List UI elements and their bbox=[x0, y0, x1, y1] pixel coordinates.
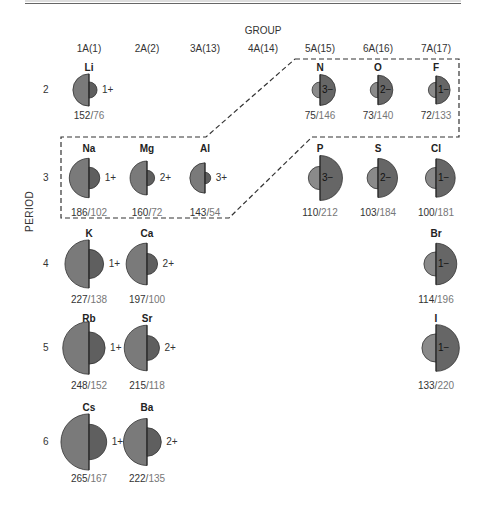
element-symbol: Cs bbox=[83, 402, 96, 413]
radius-values: 133/220 bbox=[418, 380, 454, 391]
atomic-radius: 215 bbox=[129, 380, 146, 391]
ionic-radius: 102 bbox=[90, 207, 107, 218]
atom-half-circle bbox=[73, 74, 89, 106]
atom-half-circle bbox=[124, 325, 147, 371]
radius-values: 160/72 bbox=[132, 207, 163, 218]
atom-half-circle bbox=[123, 418, 147, 465]
ion-charge: 1+ bbox=[102, 84, 113, 95]
atomic-radius: 114 bbox=[418, 294, 434, 305]
radius-values: 215/118 bbox=[129, 380, 164, 391]
atomic-radius: 73 bbox=[363, 110, 374, 121]
atom-half-circle bbox=[422, 334, 436, 362]
atom-half-circle bbox=[428, 82, 436, 97]
element-symbol: Al bbox=[200, 143, 210, 154]
atomic-radius: 222 bbox=[129, 473, 146, 484]
element-symbol: N bbox=[316, 62, 323, 73]
ion-charge: 3− bbox=[322, 172, 333, 183]
ion-half-circle bbox=[89, 332, 105, 364]
atomic-radius: 227 bbox=[71, 294, 88, 305]
element-symbol: Na bbox=[83, 143, 96, 154]
radius-values: 103/184 bbox=[360, 207, 396, 218]
ionic-radius: 76 bbox=[93, 110, 104, 121]
radius-diagram bbox=[0, 0, 480, 511]
ionic-radius: 140 bbox=[377, 110, 394, 121]
ion-charge: 1+ bbox=[109, 258, 120, 269]
ion-charge: 3+ bbox=[216, 172, 227, 183]
radius-values: 152/76 bbox=[74, 110, 105, 121]
radius-values: 73/140 bbox=[363, 110, 394, 121]
radius-values: 114/196 bbox=[418, 294, 453, 305]
ion-charge: 2− bbox=[380, 172, 391, 183]
ion-charge: 2+ bbox=[166, 436, 177, 447]
ionic-radius: 138 bbox=[90, 294, 107, 305]
element-symbol: I bbox=[435, 313, 438, 324]
atom-half-circle bbox=[312, 82, 320, 98]
ionic-radius: 181 bbox=[437, 207, 454, 218]
ion-half-circle bbox=[147, 428, 161, 457]
atom-half-circle bbox=[61, 414, 89, 470]
ionic-radius: 133 bbox=[435, 110, 452, 121]
atom-half-circle bbox=[308, 166, 320, 189]
ionic-radius: 184 bbox=[379, 207, 396, 218]
isoelectronic-dashed-outline bbox=[61, 59, 459, 218]
radius-values: 248/152 bbox=[71, 380, 107, 391]
radius-values: 110/212 bbox=[302, 207, 337, 218]
element-symbol: Ca bbox=[141, 228, 154, 239]
element-symbol: K bbox=[85, 228, 92, 239]
element-symbol: F bbox=[433, 62, 439, 73]
radius-values: 100/181 bbox=[418, 207, 454, 218]
atomic-radius: 72 bbox=[421, 110, 432, 121]
ionic-radius: 135 bbox=[148, 473, 165, 484]
ion-half-circle bbox=[147, 170, 155, 185]
ion-charge: 1− bbox=[438, 342, 449, 353]
ionic-radius: 212 bbox=[321, 207, 338, 218]
ion-charge: 1− bbox=[438, 172, 449, 183]
ion-charge: 1− bbox=[438, 258, 449, 269]
atomic-radius: 143 bbox=[190, 207, 207, 218]
atomic-radius: 110 bbox=[302, 207, 318, 218]
element-symbol: Br bbox=[430, 228, 441, 239]
element-symbol: Cl bbox=[431, 143, 441, 154]
atomic-radius: 160 bbox=[132, 207, 149, 218]
radius-values: 222/135 bbox=[129, 473, 165, 484]
atom-half-circle bbox=[190, 163, 205, 193]
ion-charge: 1− bbox=[438, 84, 449, 95]
ion-half-circle bbox=[89, 167, 100, 189]
atomic-radius: 103 bbox=[360, 207, 377, 218]
atomic-radius: 186 bbox=[71, 207, 88, 218]
radius-values: 197/100 bbox=[129, 294, 165, 305]
element-symbol: P bbox=[317, 143, 324, 154]
atomic-radius: 152 bbox=[74, 110, 91, 121]
element-symbol: O bbox=[374, 62, 382, 73]
ion-charge: 1+ bbox=[110, 342, 121, 353]
ion-charge: 2+ bbox=[160, 172, 171, 183]
atom-half-circle bbox=[63, 322, 89, 375]
atomic-radius: 197 bbox=[129, 294, 146, 305]
ion-half-circle bbox=[89, 82, 97, 98]
ion-charge: 3− bbox=[322, 84, 333, 95]
atom-half-circle bbox=[69, 158, 89, 197]
element-symbol: Ba bbox=[141, 402, 154, 413]
ionic-radius: 220 bbox=[437, 380, 454, 391]
element-symbol: Mg bbox=[140, 143, 154, 154]
radius-values: 143/54 bbox=[190, 207, 221, 218]
radius-values: 72/133 bbox=[421, 110, 452, 121]
element-symbol: Li bbox=[85, 62, 94, 73]
atom-half-circle bbox=[370, 82, 378, 97]
atom-half-circle bbox=[425, 167, 436, 188]
atom-half-circle bbox=[65, 240, 89, 288]
ionic-radius: 196 bbox=[437, 294, 454, 305]
atomic-radius: 100 bbox=[418, 207, 435, 218]
radius-values: 227/138 bbox=[71, 294, 107, 305]
ion-half-circle bbox=[147, 253, 158, 274]
ion-charge: 1+ bbox=[112, 436, 123, 447]
ion-half-circle bbox=[205, 172, 211, 183]
ion-charge: 1+ bbox=[105, 172, 116, 183]
ion-half-circle bbox=[89, 249, 104, 278]
ion-charge: 2+ bbox=[163, 258, 174, 269]
ion-charge: 2+ bbox=[165, 342, 176, 353]
atomic-radius: 248 bbox=[71, 380, 88, 391]
radius-values: 75/146 bbox=[305, 110, 336, 121]
ionic-radius: 167 bbox=[90, 473, 107, 484]
ionic-radius: 152 bbox=[90, 380, 107, 391]
